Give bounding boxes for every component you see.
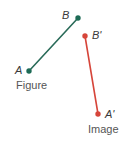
segment-ab <box>29 18 78 71</box>
point-label-a-prime: A' <box>105 109 114 120</box>
geometry-diagram: A B B' A' Figure Image <box>0 0 132 144</box>
point-label-a: A <box>15 65 22 76</box>
segment-a-prime-b-prime <box>85 36 98 114</box>
image-set-label: Image <box>88 124 119 135</box>
point-b-dot <box>75 15 80 20</box>
point-a-dot <box>26 68 31 73</box>
point-label-b-prime: B' <box>92 30 101 41</box>
point-b-prime-dot <box>82 33 87 38</box>
preimage-set-label: Figure <box>16 80 47 91</box>
point-label-b: B <box>62 10 69 21</box>
point-a-prime-dot <box>95 111 100 116</box>
